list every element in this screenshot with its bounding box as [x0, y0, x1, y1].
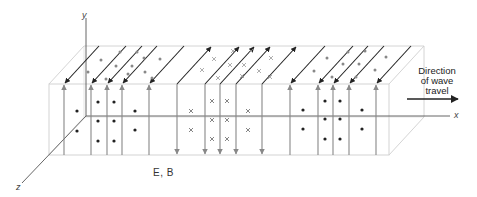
field-out-dot	[112, 100, 115, 103]
top-field-dot	[326, 57, 329, 60]
field-out-dot	[323, 99, 326, 102]
field-out-dot	[133, 109, 136, 112]
top-field-cross	[212, 57, 216, 61]
z-axis	[22, 116, 86, 183]
top-field-dot	[87, 71, 90, 74]
field-out-dot	[323, 117, 326, 120]
field-in-cross	[189, 109, 193, 113]
z-axis-label: z	[16, 182, 21, 192]
field-in-cross	[246, 128, 250, 132]
field-in-cross	[246, 109, 250, 113]
field-in-cross	[210, 118, 214, 122]
b-field-line	[262, 47, 296, 84]
y-axis-label: y	[82, 10, 87, 20]
field-out-dot	[301, 127, 304, 130]
b-field-line	[65, 46, 99, 83]
top-field-dot	[119, 51, 122, 54]
top-field-dot	[100, 59, 103, 62]
field-out-dot	[338, 117, 341, 120]
top-field-dot	[143, 57, 146, 60]
field-out-dot	[75, 129, 78, 132]
top-field-dot	[347, 51, 350, 54]
b-field-line	[205, 47, 239, 84]
box-front-face	[49, 84, 389, 155]
top-field-dot	[358, 63, 361, 66]
field-out-dot	[112, 139, 115, 142]
top-field-dot	[127, 73, 130, 76]
x-axis-label: x	[454, 110, 459, 120]
b-field-line	[334, 46, 368, 83]
field-out-dot	[338, 99, 341, 102]
field-in-cross	[210, 137, 214, 141]
b-field-line	[291, 46, 325, 83]
top-field-cross	[200, 68, 204, 72]
field-in-cross	[225, 118, 229, 122]
top-field-dot	[151, 77, 154, 80]
top-field-dot	[115, 65, 118, 68]
b-field-line	[377, 46, 411, 83]
top-field-cross	[269, 56, 273, 60]
top-field-dot	[364, 50, 367, 53]
field-out-dot	[112, 119, 115, 122]
top-field-dot	[144, 71, 147, 74]
top-field-dot	[105, 78, 108, 81]
em-wave-diagram	[0, 0, 477, 197]
top-field-dot	[385, 56, 388, 59]
field-out-dot	[96, 100, 99, 103]
direction-line-3: travel	[407, 86, 467, 96]
direction-label: Direction of wave travel	[407, 66, 467, 96]
e-field-lines	[64, 84, 376, 155]
field-out-dot	[301, 108, 304, 111]
box-back-edges	[84, 46, 424, 117]
field-out-dot	[75, 109, 78, 112]
field-out-dot	[96, 119, 99, 122]
top-field-dot	[313, 70, 316, 73]
b-field-line	[177, 47, 211, 84]
field-out-dot	[360, 108, 363, 111]
field-out-dot	[133, 128, 136, 131]
top-field-dot	[131, 65, 134, 68]
top-field-dot	[342, 63, 345, 66]
top-field-dot	[331, 76, 334, 79]
top-field-dot	[374, 69, 377, 72]
field-in-cross	[225, 99, 229, 103]
field-out-dot	[323, 137, 326, 140]
field-in-cross	[225, 137, 229, 141]
top-field-cross	[257, 69, 261, 73]
top-field-cross	[242, 63, 246, 67]
top-field-dot	[159, 58, 162, 61]
top-field-cross	[216, 76, 220, 80]
top-field-cross	[231, 49, 235, 53]
top-field-dot	[355, 76, 358, 79]
top-field-dot	[136, 51, 139, 54]
fields-label: E, B	[153, 168, 174, 178]
b-field-line	[150, 46, 184, 83]
field-in-cross	[210, 99, 214, 103]
top-field-cross	[228, 63, 232, 67]
field-out-dot	[360, 127, 363, 130]
field-out-dot	[338, 137, 341, 140]
field-in-cross	[189, 128, 193, 132]
field-out-dot	[96, 139, 99, 142]
